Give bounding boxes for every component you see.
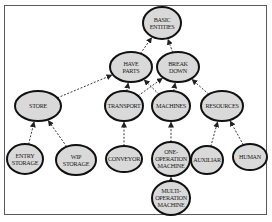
node-wip-storage: WIPSTORAGE — [56, 145, 96, 175]
node-conveyor: CONVEYOR — [106, 146, 142, 172]
node-human: HUMAN — [233, 144, 267, 170]
entity-hierarchy-diagram: BASICENTITIESHAVEPARTSBREAKDOWNSTORETRAN… — [0, 0, 272, 222]
node-label: DOWN — [169, 67, 188, 74]
node-label: HUMAN — [239, 153, 262, 160]
nodes-layer: BASICENTITIESHAVEPARTSBREAKDOWNSTORETRAN… — [7, 7, 267, 215]
edge-break-down-to-basic-entities — [168, 40, 173, 53]
node-break-down: BREAKDOWN — [157, 52, 199, 82]
edge-wip-storage-to-store — [49, 121, 67, 147]
edge-human-to-resources — [230, 121, 243, 145]
node-transport: TRANSPORT — [105, 91, 143, 121]
edge-auxiliar-to-resources — [211, 122, 218, 146]
node-resources: RESOURCES — [201, 91, 243, 121]
node-label: CONVEYOR — [108, 155, 141, 162]
node-one-operation-machine: ONE-OPERATIONMACHINE — [152, 142, 190, 176]
node-label: STORAGE — [63, 160, 90, 167]
node-label: MACHINE — [158, 201, 185, 208]
node-label: ENTITIES — [150, 23, 176, 30]
node-basic-entities: BASICENTITIES — [143, 7, 181, 39]
node-store: STORE — [15, 91, 61, 121]
edge-resources-to-break-down — [192, 80, 209, 95]
node-label: MACHINES — [156, 102, 187, 109]
edge-machines-to-break-down — [174, 83, 175, 91]
edge-transport-to-have-parts — [127, 83, 128, 91]
node-label: STORE — [29, 102, 48, 109]
node-have-parts: HAVEPARTS — [110, 52, 152, 82]
node-machines: MACHINES — [152, 91, 190, 121]
edge-have-parts-to-basic-entities — [140, 38, 151, 54]
node-label: STORAGE — [12, 159, 39, 166]
node-label: PARTS — [123, 67, 141, 74]
node-label: TRANSPORT — [107, 102, 141, 109]
node-label: MACHINE — [158, 162, 185, 169]
node-auxiliar: AUXILIAR — [191, 146, 223, 174]
edge-store-to-have-parts — [57, 75, 111, 98]
edge-entry-storage-to-store — [29, 122, 34, 144]
node-label: AUXILIAR — [193, 156, 222, 163]
node-multi-operation-machine: MULTI-OPERATIONMACHINE — [152, 181, 190, 215]
node-entry-storage: ENTRYSTORAGE — [7, 144, 43, 174]
node-label: RESOURCES — [205, 102, 239, 109]
diagram-canvas: BASICENTITIESHAVEPARTSBREAKDOWNSTORETRAN… — [0, 0, 272, 222]
